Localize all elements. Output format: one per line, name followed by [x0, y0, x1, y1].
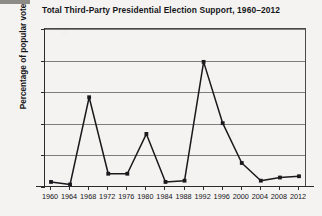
data-series: [45, 29, 307, 187]
y-axis-tick: [41, 187, 45, 188]
x-axis-tick-label: 1960: [42, 192, 58, 201]
data-point-marker: [49, 180, 53, 184]
data-point-marker: [297, 174, 301, 178]
data-point-marker: [144, 132, 148, 136]
x-axis-tick: [145, 186, 146, 190]
x-axis-tick: [50, 186, 51, 190]
data-point-marker: [164, 180, 168, 184]
data-point-marker: [259, 179, 263, 183]
x-axis-tick: [298, 186, 299, 190]
series-line: [51, 62, 299, 185]
y-axis-label: Percentage of popular vote: [19, 0, 28, 127]
x-axis-tick-label: 2012: [290, 192, 306, 201]
data-point-marker: [183, 179, 187, 183]
x-axis-tick-label: 2004: [252, 192, 268, 201]
x-axis-tick-label: 1984: [156, 192, 172, 201]
x-axis-tick: [164, 186, 165, 190]
x-axis-tick-label: 1996: [214, 192, 230, 201]
plot-area: 0510152025: [44, 28, 306, 186]
x-axis-tick: [203, 186, 204, 190]
x-axis-tick-label: 1972: [99, 192, 115, 201]
chart-title: Total Third-Party Presidential Election …: [0, 5, 322, 15]
x-axis-tick-label: 1964: [61, 192, 77, 201]
x-axis-tick: [184, 186, 185, 190]
x-axis-tick-label: 1976: [118, 192, 134, 201]
x-axis-tick-label: 1980: [137, 192, 153, 201]
x-axis-tick: [222, 186, 223, 190]
x-axis-tick: [88, 186, 89, 190]
x-axis-tick: [107, 186, 108, 190]
x-axis-tick-label: 1968: [80, 192, 96, 201]
x-axis-tick: [260, 186, 261, 190]
data-point-marker: [278, 176, 282, 180]
x-axis-tick: [126, 186, 127, 190]
x-axis-tick-label: 2000: [233, 192, 249, 201]
data-point-marker: [240, 161, 244, 165]
data-point-marker: [125, 172, 129, 176]
x-axis-line: [36, 186, 314, 187]
x-axis-tick: [69, 186, 70, 190]
data-point-marker: [202, 60, 206, 64]
x-axis-tick-label: 2008: [271, 192, 287, 201]
x-axis-tick: [279, 186, 280, 190]
data-point-marker: [221, 121, 225, 125]
data-point-marker: [87, 95, 91, 99]
chart-page: Total Third-Party Presidential Election …: [0, 0, 322, 216]
data-point-marker: [106, 172, 110, 176]
x-axis-tick: [241, 186, 242, 190]
x-axis-tick-label: 1992: [194, 192, 210, 201]
x-axis-tick-label: 1988: [175, 192, 191, 201]
